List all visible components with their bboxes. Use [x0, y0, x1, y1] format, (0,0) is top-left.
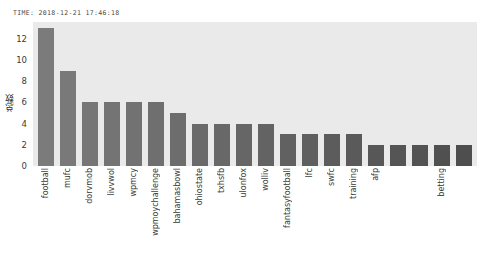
x-slot: wpmoychallenge — [145, 168, 167, 273]
bar[interactable] — [38, 28, 55, 166]
x-tick-label: swfc — [328, 168, 336, 186]
x-slot: mufc — [57, 168, 79, 273]
x-tick-label: ulonfox — [240, 168, 248, 197]
x-tick-label: football — [42, 168, 50, 198]
bar-slot — [211, 22, 233, 166]
y-axis-tick-labels: 024681012 — [0, 22, 31, 166]
x-slot: football — [35, 168, 57, 273]
bar[interactable] — [434, 145, 451, 166]
x-slot — [453, 168, 475, 273]
bar[interactable] — [346, 134, 363, 166]
x-slot: training — [343, 168, 365, 273]
bar[interactable] — [60, 71, 77, 166]
x-tick-label: fantasyfootball — [284, 168, 292, 228]
x-tick-label: txhsfb — [218, 168, 226, 193]
bar-slot — [255, 22, 277, 166]
x-slot — [409, 168, 431, 273]
x-tick-label: wpmcy — [130, 168, 138, 197]
bar-slot — [321, 22, 343, 166]
x-slot: ulonfox — [233, 168, 255, 273]
bar-slot — [453, 22, 475, 166]
y-tick-label: 4 — [22, 119, 27, 129]
bar[interactable] — [148, 102, 165, 166]
x-tick-label: ohiostate — [196, 168, 204, 205]
x-tick-label: wolliv — [262, 168, 270, 191]
bar-slot — [343, 22, 365, 166]
bar[interactable] — [192, 124, 209, 166]
bar[interactable] — [280, 134, 297, 166]
x-slot: ohiostate — [189, 168, 211, 273]
x-slot: livvwol — [101, 168, 123, 273]
x-slot: lfc — [299, 168, 321, 273]
bar[interactable] — [236, 124, 253, 166]
bar-slot — [145, 22, 167, 166]
y-tick-label: 10 — [16, 55, 27, 65]
x-slot: betting — [431, 168, 453, 273]
bar[interactable] — [214, 124, 231, 166]
y-tick-label: 6 — [22, 97, 27, 107]
chart-title: TIME: 2018-12-21 17:46:18 — [13, 9, 120, 17]
x-tick-label: afp — [372, 168, 380, 181]
bar-slot — [189, 22, 211, 166]
x-slot: afp — [365, 168, 387, 273]
x-slot: wolliv — [255, 168, 277, 273]
bar[interactable] — [324, 134, 341, 166]
x-slot: txhsfb — [211, 168, 233, 273]
y-tick-label: 0 — [22, 161, 27, 171]
bar[interactable] — [170, 113, 187, 166]
x-axis-tick-labels: footballmufcdorvmoblivvwolwpmcywpmoychal… — [33, 168, 477, 273]
bar-chart-figure: TIME: 2018-12-21 17:46:18 总数 024681012 f… — [0, 0, 489, 277]
x-tick-label: lfc — [306, 168, 314, 177]
x-tick-label: wpmoychallenge — [152, 168, 160, 236]
bar-slot — [365, 22, 387, 166]
bar[interactable] — [126, 102, 143, 166]
x-tick-label: betting — [438, 168, 446, 197]
bar-slot — [167, 22, 189, 166]
bar[interactable] — [390, 145, 407, 166]
bar[interactable] — [104, 102, 121, 166]
x-tick-label: mufc — [64, 168, 72, 188]
bar[interactable] — [456, 145, 473, 166]
x-tick-label: training — [350, 168, 358, 199]
bar[interactable] — [82, 102, 99, 166]
x-slot: fantasyfootball — [277, 168, 299, 273]
x-tick-label: bahamasbowl — [174, 168, 182, 224]
bar-slot — [101, 22, 123, 166]
bar-slot — [299, 22, 321, 166]
x-slot: bahamasbowl — [167, 168, 189, 273]
bar[interactable] — [412, 145, 429, 166]
x-slot: wpmcy — [123, 168, 145, 273]
bar-slot — [123, 22, 145, 166]
bar-slot — [57, 22, 79, 166]
bar[interactable] — [302, 134, 319, 166]
bar-slot — [35, 22, 57, 166]
bar[interactable] — [258, 124, 275, 166]
x-slot: dorvmob — [79, 168, 101, 273]
y-tick-label: 12 — [16, 34, 27, 44]
bar-series — [33, 22, 477, 166]
x-tick-label: dorvmob — [86, 168, 94, 204]
bar-slot — [277, 22, 299, 166]
bar-slot — [233, 22, 255, 166]
bar-slot — [79, 22, 101, 166]
bar-slot — [409, 22, 431, 166]
plot-area — [33, 22, 477, 166]
bar-slot — [387, 22, 409, 166]
x-slot: swfc — [321, 168, 343, 273]
x-slot — [387, 168, 409, 273]
y-tick-label: 2 — [22, 140, 27, 150]
x-tick-label: livvwol — [108, 168, 116, 196]
y-tick-label: 8 — [22, 76, 27, 86]
bar-slot — [431, 22, 453, 166]
bar[interactable] — [368, 145, 385, 166]
